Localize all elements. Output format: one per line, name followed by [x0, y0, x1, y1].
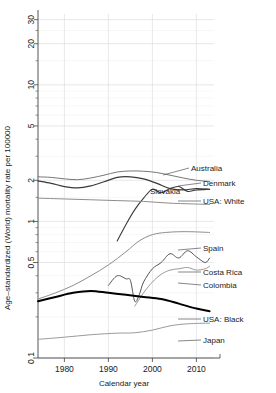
y-tick-label: 20 — [26, 39, 36, 49]
chart-container: 0.10.5125102030 1980199020002010 Austral… — [0, 0, 276, 393]
y-tick-label: 10 — [26, 80, 36, 90]
series-label-colombia: Colombia — [203, 281, 237, 290]
y-tick-label: 1 — [26, 219, 36, 224]
series-label-spain: Spain — [203, 244, 223, 253]
mortality-rate-line-chart: 0.10.5125102030 1980199020002010 Austral… — [0, 0, 276, 393]
series-label-usa-white: USA: White — [203, 197, 245, 206]
y-tick-label: 0.5 — [26, 256, 36, 268]
series-label-japan: Japan — [203, 336, 225, 345]
x-tick-label: 2010 — [187, 364, 206, 374]
series-label-costa-rica: Costa Rica — [203, 268, 243, 277]
x-axis-title: Calendar year — [99, 379, 150, 388]
y-tick-label: 0.1 — [26, 352, 36, 364]
series-label-denmark: Denmark — [203, 179, 236, 188]
series-label-slovakia: Slovakia — [150, 187, 181, 196]
y-tick-label: 5 — [26, 123, 36, 128]
y-tick-label: 30 — [26, 15, 36, 25]
series-label-usa-black: USA: Black — [203, 315, 244, 324]
x-tick-label: 1990 — [99, 364, 118, 374]
y-axis-title: Age–standardized (World) mortality rate … — [3, 125, 12, 310]
x-tick-label: 2000 — [143, 364, 162, 374]
x-tick-label: 1980 — [55, 364, 74, 374]
series-label-australia: Australia — [191, 164, 223, 173]
y-tick-label: 2 — [26, 178, 36, 183]
